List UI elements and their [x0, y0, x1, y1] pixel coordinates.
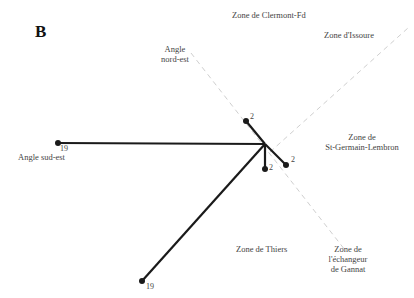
edge-southwest	[142, 144, 265, 281]
weight-west: 19	[60, 144, 68, 153]
node-north	[243, 118, 249, 124]
angle-sud-est-label: Angle sud-est	[18, 152, 65, 162]
node-southeast	[283, 162, 289, 168]
zone-issoire-label: Zone d'Issoure	[324, 30, 374, 40]
zone-gannat-line3: de Gannat	[320, 264, 376, 274]
angle-nord-est-label: Angle nord-est	[152, 44, 198, 64]
edge-west	[58, 143, 265, 144]
zone-st-germain-line2: St-Germain-Lembron	[312, 142, 412, 152]
node-south	[262, 166, 268, 172]
node-southwest	[139, 278, 145, 284]
angle-nord-est-line1: Angle	[152, 44, 198, 54]
zone-gannat-line1: Zone de	[320, 244, 376, 254]
angle-nord-est-line2: nord-est	[152, 54, 198, 64]
weight-south: 2	[269, 163, 273, 172]
edge-north	[246, 121, 265, 144]
zone-gannat-label: Zone de l'échangeur de Gannat	[320, 244, 376, 274]
zone-gannat-line2: l'échangeur	[320, 254, 376, 264]
weight-north: 2	[250, 112, 254, 121]
panel-label: B	[35, 22, 46, 42]
weight-southeast: 2	[291, 155, 295, 164]
zone-st-germain-line1: Zone de	[312, 132, 412, 142]
zone-st-germain-label: Zone de St-Germain-Lembron	[312, 132, 412, 152]
weight-southwest: 19	[146, 282, 154, 291]
zone-thiers-label: Zone de Thiers	[236, 244, 287, 254]
zone-clermont-label: Zone de Clermont-Fd	[232, 10, 306, 20]
